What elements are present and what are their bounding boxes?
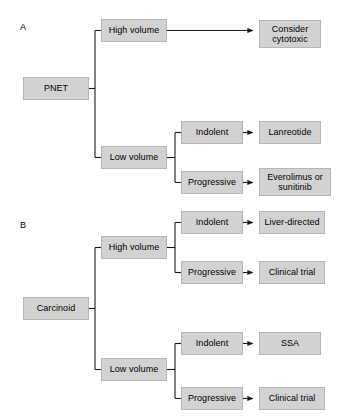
node-everolimus-or-sunitinib[interactable]: Everolimus or sunitinib: [259, 168, 331, 196]
edge-low-volume-trunk: [167, 133, 181, 183]
node-lanreotide[interactable]: Lanreotide: [259, 121, 321, 144]
node-clinical-trial-upper[interactable]: Clinical trial: [259, 261, 325, 284]
flowchart-figure: A PNET High volume Consider cytotoxic Lo…: [0, 0, 337, 416]
edge-pnet-trunk: [89, 31, 101, 158]
panel-label-b: B: [20, 220, 26, 230]
edge-low-volume-trunk-b: [167, 344, 181, 399]
node-indolent-a[interactable]: Indolent: [181, 121, 243, 144]
edge-carcinoid-trunk: [89, 248, 101, 370]
node-progressive-b-high[interactable]: Progressive: [181, 261, 243, 284]
panel-label-a: A: [20, 22, 26, 32]
node-low-volume-b[interactable]: Low volume: [101, 358, 167, 381]
edge-high-volume-trunk-b: [167, 223, 181, 273]
node-consider-cytotoxic[interactable]: Consider cytotoxic: [259, 20, 321, 48]
node-low-volume-a[interactable]: Low volume: [101, 146, 167, 169]
node-indolent-b-low[interactable]: Indolent: [181, 332, 243, 355]
node-liver-directed[interactable]: Liver-directed: [259, 211, 325, 234]
node-ssa[interactable]: SSA: [259, 332, 321, 355]
node-carcinoid[interactable]: Carcinoid: [23, 297, 89, 320]
node-progressive-a[interactable]: Progressive: [181, 171, 243, 194]
node-clinical-trial-lower[interactable]: Clinical trial: [259, 387, 325, 410]
node-progressive-b-low[interactable]: Progressive: [181, 387, 243, 410]
node-indolent-b-high[interactable]: Indolent: [181, 211, 243, 234]
node-high-volume-a[interactable]: High volume: [101, 19, 167, 42]
node-pnet[interactable]: PNET: [23, 77, 89, 100]
node-high-volume-b[interactable]: High volume: [101, 236, 167, 259]
